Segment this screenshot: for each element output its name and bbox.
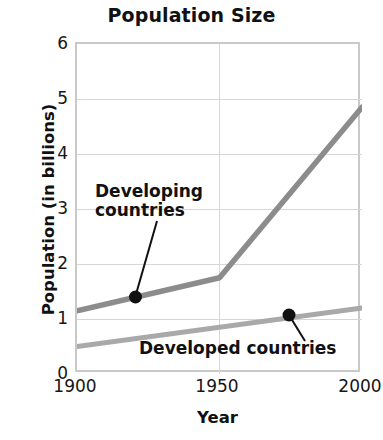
x-tick-1900: 1900: [30, 378, 120, 395]
y-tick-4: 4: [8, 145, 68, 162]
annotation-developing-line1: Developing: [95, 182, 203, 201]
data-point-developing-1920: [129, 291, 142, 304]
data-point-developed-1975: [283, 309, 296, 322]
plot-area: Developing countries Developed countries: [75, 42, 360, 372]
y-tick-2: 2: [8, 255, 68, 272]
annotation-developed-countries: Developed countries: [139, 339, 337, 358]
annotation-developing-line2: countries: [95, 201, 203, 220]
x-tick-1950: 1950: [172, 378, 262, 395]
leader-line-developing: [136, 221, 158, 296]
annotation-developing-countries: Developing countries: [95, 182, 203, 220]
population-size-chart: Population Size Population (in billions)…: [0, 0, 383, 440]
x-axis-title: Year: [75, 408, 360, 427]
y-tick-6: 6: [8, 35, 68, 52]
chart-title: Population Size: [0, 4, 383, 26]
x-tick-2000: 2000: [315, 378, 383, 395]
y-tick-5: 5: [8, 90, 68, 107]
y-tick-1: 1: [8, 310, 68, 327]
y-tick-3: 3: [8, 200, 68, 217]
